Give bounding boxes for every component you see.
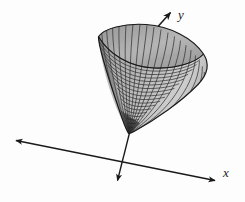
x-axis-line <box>16 141 215 181</box>
paraboloid-surface <box>98 24 207 134</box>
figure-canvas: x y <box>0 0 245 202</box>
y-axis-label: y <box>176 7 184 22</box>
surface-figure: x y <box>0 0 245 202</box>
axes-front <box>16 133 215 181</box>
x-axis-label: x <box>222 165 229 180</box>
z-axis-line <box>118 133 130 181</box>
